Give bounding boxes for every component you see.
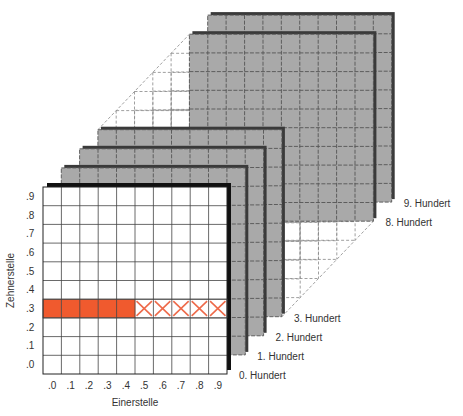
x-tick-label: .8 — [195, 380, 204, 391]
x-tick-label: .0 — [48, 380, 57, 391]
filled-cell-.3 — [98, 299, 117, 318]
filled-cell-.1 — [61, 299, 80, 318]
y-tick-label: .9 — [26, 191, 35, 202]
layer-label-1: 1. Hundert — [257, 351, 304, 362]
layer-label-9: 9. Hundert — [404, 198, 451, 209]
filled-cell-.4 — [117, 299, 136, 318]
y-tick-label: .3 — [26, 303, 35, 314]
x-axis-title: Einerstelle — [112, 397, 159, 408]
layer-label-8: 8. Hundert — [385, 217, 432, 228]
filled-cell-.2 — [80, 299, 99, 318]
x-tick-label: .1 — [66, 380, 75, 391]
y-tick-label: .4 — [26, 284, 35, 295]
filled-cell-.0 — [43, 299, 62, 318]
diagonal-connector-bottom — [282, 221, 374, 317]
hundred-pages-diagram: 0. Hundert1. Hundert2. Hundert3. Hundert… — [0, 0, 463, 416]
y-tick-label: .0 — [26, 359, 35, 370]
y-tick-label: .7 — [26, 228, 35, 239]
x-tick-label: .6 — [158, 380, 167, 391]
y-axis-title: Zehnerstelle — [5, 253, 16, 308]
x-tick-label: .3 — [103, 380, 112, 391]
y-tick-label: .8 — [26, 210, 35, 221]
y-tick-label: .2 — [26, 322, 35, 333]
front-panel-0-hundert — [43, 183, 231, 374]
x-tick-label: .9 — [214, 380, 223, 391]
y-tick-label: .1 — [26, 340, 35, 351]
y-tick-label: .6 — [26, 247, 35, 258]
x-tick-label: .2 — [85, 380, 94, 391]
diagonal-connector-top — [98, 34, 189, 130]
x-tick-label: .5 — [140, 380, 149, 391]
layer-label-2: 2. Hundert — [276, 332, 323, 343]
layer-label-3: 3. Hundert — [294, 313, 341, 324]
x-tick-label: .4 — [122, 380, 131, 391]
layer-label-0: 0. Hundert — [239, 370, 286, 381]
diagram-canvas: 0. Hundert1. Hundert2. Hundert3. Hundert… — [0, 0, 463, 416]
x-tick-label: .7 — [177, 380, 186, 391]
y-tick-label: .5 — [26, 266, 35, 277]
